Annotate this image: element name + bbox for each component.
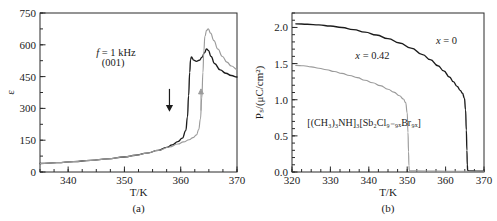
figure-container: 3403503603700150300450600750 f = 1 kHz (… — [0, 0, 497, 221]
y-tick-label: 300 — [20, 102, 37, 114]
panel-b: 3203303403503603700.00.51.01.52.0 x = 0 … — [250, 0, 497, 221]
y-tick-label: 150 — [20, 134, 37, 146]
panel-b-axes: 3203303403503603700.00.51.01.52.0 — [274, 13, 493, 186]
panel-b-x-axis-label: T/K — [379, 186, 397, 198]
series-label-x042: x = 0.42 — [354, 50, 389, 61]
x-tick-label: 350 — [116, 174, 133, 186]
panel-a-curves — [40, 29, 237, 164]
x-tick-label: 330 — [322, 174, 339, 186]
down-arrow-icon — [167, 89, 172, 111]
panel-a-plot: 3403503603700150300450600750 f = 1 kHz (… — [0, 0, 250, 221]
up-arrow-icon — [199, 89, 204, 111]
y-tick-label: 0.0 — [274, 166, 288, 178]
x-tick-label: 370 — [229, 174, 246, 186]
series-label-x0: x = 0 — [435, 35, 457, 46]
y-tick-label: 1.5 — [274, 58, 288, 70]
panel-b-y-axis-label: Pₛ/(μC/cm²) — [253, 65, 266, 119]
panel-b-plot: 3203303403503603700.00.51.01.52.0 x = 0 … — [250, 0, 497, 221]
x-tick-label: 340 — [361, 174, 378, 186]
data-curve — [40, 49, 237, 163]
y-tick-label: 2.0 — [274, 21, 288, 33]
x-tick-label: 350 — [399, 174, 416, 186]
y-tick-label: 600 — [20, 39, 37, 51]
y-tick-label: 0.5 — [274, 130, 288, 142]
x-tick-label: 360 — [172, 174, 189, 186]
orientation-annotation: (001) — [102, 57, 125, 69]
panel-a-x-axis-label: T/K — [130, 186, 148, 198]
y-tick-label: 450 — [20, 71, 37, 83]
x-tick-label: 340 — [60, 174, 77, 186]
panel-a-y-axis-label: ε — [4, 90, 16, 95]
x-tick-label: 370 — [476, 174, 493, 186]
y-tick-label: 1.0 — [274, 94, 288, 106]
chemical-formula-label: [(CH₃)₃NH]₃[Sb₂Cl₉₋₉ₓBr₉ₓ] — [307, 117, 421, 129]
panel-a: 3403503603700150300450600750 f = 1 kHz (… — [0, 0, 250, 221]
panel-b-caption: (b) — [382, 202, 395, 215]
y-tick-label: 0 — [31, 166, 37, 178]
y-tick-label: 750 — [20, 7, 37, 19]
x-tick-label: 360 — [437, 174, 454, 186]
panel-a-caption: (a) — [132, 202, 145, 215]
panel-a-arrows — [167, 89, 204, 111]
